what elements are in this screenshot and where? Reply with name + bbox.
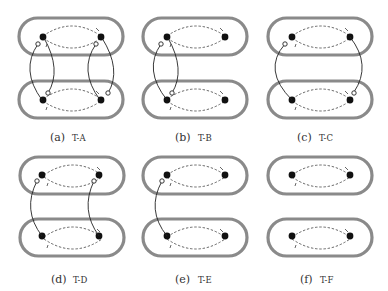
node: [222, 97, 229, 104]
port: [36, 42, 40, 46]
port: [94, 42, 98, 46]
caption-label: (b): [175, 131, 191, 144]
link-left-outer: [30, 44, 42, 100]
node: [40, 34, 47, 41]
container-bottom: [19, 81, 123, 118]
panel-b: (b) T-B: [143, 18, 247, 144]
container-top: [143, 18, 247, 55]
caption-name: T-D: [73, 275, 87, 285]
node: [98, 34, 105, 41]
port: [35, 179, 39, 183]
link-right-inner: [88, 44, 100, 100]
caption-label: (d): [51, 273, 67, 286]
caption-label: (c): [297, 131, 312, 144]
node: [289, 172, 296, 179]
container-bottom: [143, 219, 247, 256]
figure: (a) T-A (b) T-B: [0, 0, 388, 291]
caption-name: T-C: [319, 133, 333, 143]
panel-c: (c) T-C: [268, 18, 372, 144]
node: [222, 34, 229, 41]
panel-e: (e) T-E: [143, 157, 247, 286]
node: [347, 233, 354, 240]
container-bottom: [20, 219, 124, 256]
port: [283, 42, 287, 46]
port: [352, 91, 356, 95]
node: [347, 172, 354, 179]
container-top: [268, 18, 372, 55]
caption-name: T-A: [72, 133, 86, 143]
caption-name: T-B: [198, 133, 212, 143]
node: [289, 233, 296, 240]
link-right: [88, 181, 99, 236]
panel-f: (f) T-F: [268, 157, 372, 286]
caption-name: T-E: [198, 275, 212, 285]
port: [46, 91, 50, 95]
port: [92, 179, 96, 183]
link-left-inner: [168, 38, 178, 93]
caption-label: (e): [175, 273, 190, 286]
container-bottom: [268, 219, 372, 256]
panel-d: (d) T-D: [20, 157, 124, 286]
port: [160, 179, 164, 183]
node: [164, 172, 171, 179]
node: [347, 97, 354, 104]
caption-label: (a): [50, 131, 65, 144]
panel-a: (a) T-A: [19, 18, 123, 144]
caption-label: (f): [300, 273, 313, 286]
node: [39, 172, 46, 179]
node: [222, 233, 229, 240]
container-top: [20, 157, 124, 194]
link-right-outer: [102, 38, 114, 93]
caption-name: T-F: [320, 275, 333, 285]
container-bottom: [268, 81, 372, 118]
container-top: [268, 157, 372, 194]
port: [159, 42, 163, 46]
port: [106, 91, 110, 95]
link-left: [155, 181, 167, 236]
link-left-inner: [44, 38, 54, 93]
node: [222, 172, 229, 179]
node: [289, 34, 296, 41]
node: [96, 172, 103, 179]
link-left: [31, 181, 42, 236]
node: [164, 34, 171, 41]
port: [170, 91, 174, 95]
